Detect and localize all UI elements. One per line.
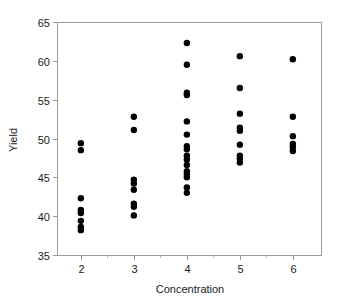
data-point [290,56,296,62]
data-points-layer [78,40,296,234]
data-point [237,85,243,91]
y-tick-label: 55 [38,95,50,107]
y-tick-label: 50 [38,134,50,146]
x-tick-label: 2 [78,263,84,275]
x-tick-label: 6 [290,263,296,275]
data-point [237,110,243,116]
data-point [237,142,243,148]
data-point [184,156,190,162]
y-tick-label: 45 [38,172,50,184]
data-point [78,218,84,224]
y-axis-title: Yield [7,128,19,152]
data-point [184,162,190,168]
data-point [290,114,296,120]
data-point [131,127,137,133]
y-axis-tick-labels: 35404550556065 [38,17,50,262]
data-point [237,128,243,134]
data-point [237,159,243,165]
data-point [184,174,190,180]
data-point [237,53,243,59]
data-point [184,118,190,124]
chart-figure: 35404550556065 23456 Concentration Yield [0,0,347,306]
y-tick-label: 60 [38,56,50,68]
data-point [131,114,137,120]
axis-frame [57,22,322,256]
data-point [290,148,296,154]
data-point [184,131,190,137]
x-axis-title: Concentration [156,283,225,295]
data-point [184,92,190,98]
x-tick-label: 3 [131,263,137,275]
data-point [131,212,137,218]
data-point [184,62,190,68]
x-axis-tick-labels: 23456 [78,263,296,275]
x-tick-label: 4 [184,263,190,275]
x-tick-label: 5 [237,263,243,275]
y-axis-ticks [53,23,57,256]
data-point [78,195,84,201]
y-tick-label: 35 [38,250,50,262]
data-point [184,40,190,46]
data-point [184,184,190,190]
data-point [131,187,137,193]
y-tick-label: 65 [38,17,50,29]
data-point [78,140,84,146]
data-point [78,210,84,216]
y-tick-label: 40 [38,211,50,223]
data-point [131,180,137,186]
data-point [78,227,84,233]
data-point [184,146,190,152]
data-point [78,147,84,153]
scatter-plot: 35404550556065 23456 Concentration Yield [0,0,347,306]
data-point [184,190,190,196]
data-point [290,133,296,139]
data-point [131,204,137,210]
